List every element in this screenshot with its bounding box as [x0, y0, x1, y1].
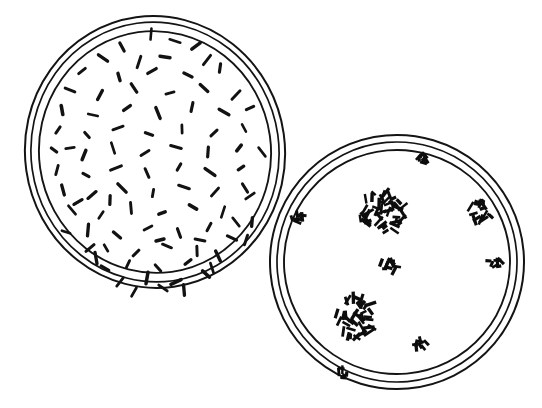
bacillus-rod — [208, 147, 209, 157]
colony-rod — [391, 197, 397, 199]
colony-rod — [474, 203, 480, 204]
colony-rod — [366, 319, 374, 320]
bacillus-rod — [252, 218, 253, 227]
bacillus-rod — [66, 147, 74, 148]
bacillus-rod — [195, 239, 205, 241]
bacillus-rod — [118, 73, 120, 80]
bacillus-rod — [145, 133, 152, 136]
colony-rod — [346, 371, 347, 376]
colony-rod — [360, 215, 361, 223]
bacillus-rod — [160, 56, 170, 57]
colony-rod — [291, 215, 293, 221]
colony-rod — [416, 340, 418, 347]
colony-rod — [338, 368, 339, 376]
bacillus-rod — [151, 28, 152, 39]
colony-rod — [347, 332, 349, 340]
bacillus-rod — [152, 189, 153, 196]
colony-rod — [365, 194, 367, 203]
colony-rod — [343, 326, 345, 336]
petri-dish-figure — [0, 0, 542, 408]
bacillus-rod — [184, 285, 185, 296]
bacillus-rod — [88, 114, 97, 116]
colony-rod — [396, 217, 397, 223]
bacillus-rod — [87, 224, 88, 236]
bacillus-rod — [95, 253, 97, 264]
bacillus-rod — [159, 212, 165, 214]
bacillus-rod — [131, 203, 132, 214]
petri-dish-illustration — [0, 0, 542, 408]
colony-rod — [298, 215, 306, 216]
colony-rod — [342, 311, 344, 320]
colony-rod — [387, 267, 393, 268]
bacillus-rod — [146, 272, 148, 283]
bacillus-rod — [191, 103, 193, 112]
bacillus-rod — [61, 105, 63, 114]
colony-rod — [419, 336, 421, 344]
colony-rod — [297, 211, 298, 218]
colony-rod — [363, 327, 374, 328]
colony-rod — [380, 201, 386, 203]
bacillus-rod — [219, 64, 220, 72]
bacillus-rod — [156, 239, 164, 241]
colony-rod — [364, 316, 372, 317]
